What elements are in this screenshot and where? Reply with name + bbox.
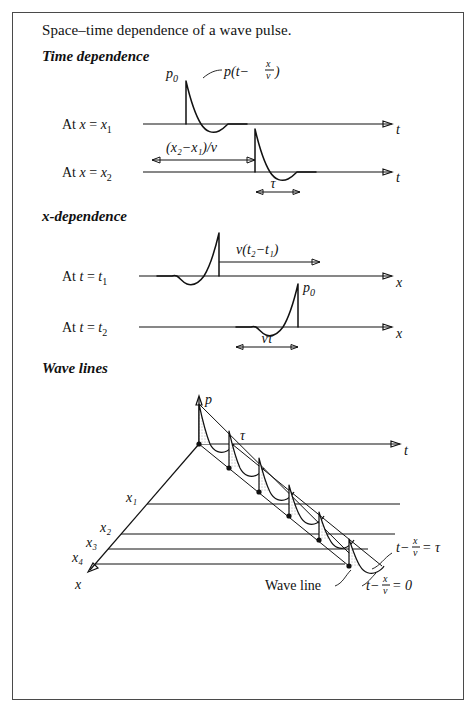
svg-text:t−: t− <box>396 540 409 555</box>
crest-ridge-line <box>199 404 349 553</box>
wave-line-label: Wave line <box>265 578 321 593</box>
wave-pulse <box>196 404 234 452</box>
svg-text:= 0: = 0 <box>392 578 412 593</box>
wave-pulse <box>346 539 384 573</box>
wave-pulse <box>286 485 324 524</box>
x-tick-x3: x₃ <box>85 535 97 550</box>
svg-text:= τ: = τ <box>422 540 441 555</box>
x-tick-x4: x₄ <box>71 550 83 565</box>
p-axis-label: p <box>204 392 212 407</box>
x-tick-x2: x₂ <box>99 520 111 535</box>
svg-text:v: v <box>413 547 418 558</box>
x-tick-x1: x₁ <box>125 490 137 505</box>
svg-text:x: x <box>412 535 418 546</box>
svg-text:t−: t− <box>366 578 379 593</box>
x-axis-wave: x <box>74 444 199 592</box>
annotation-back: t− x v = τ <box>372 535 441 569</box>
svg-text:v: v <box>383 585 388 596</box>
wave-pulse <box>226 431 264 476</box>
t-axis-label-wave: t <box>404 443 409 458</box>
svg-text:x: x <box>382 573 388 584</box>
wave-line-front <box>199 444 349 566</box>
wave-line-tail <box>232 444 382 566</box>
wave-lines-diagram: p t x x₁ x₂ x₃ x₄ <box>0 0 476 721</box>
back-label-group: t− x v = τ <box>396 535 441 558</box>
x-axis-label-wave: x <box>74 577 82 592</box>
tau-label-wave: τ <box>240 428 246 443</box>
annotation-front: Wave line t− x v = 0 <box>265 570 412 596</box>
